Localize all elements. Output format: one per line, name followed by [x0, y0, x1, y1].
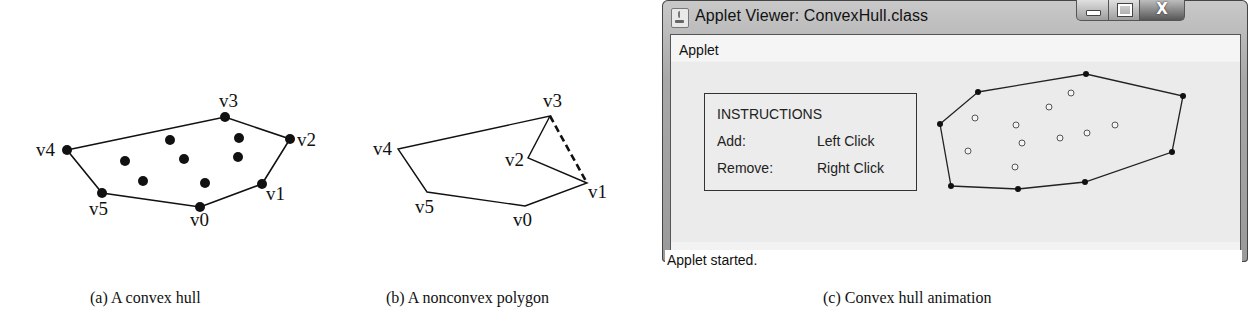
applet-viewer-window: Applet Viewer: ConvexHull.class X Applet… — [662, 0, 1248, 262]
vertex-label-v2: v2 — [297, 129, 316, 150]
vertex-label-v3: v3 — [543, 90, 562, 111]
window-client-area: Applet INSTRUCTIONS Add: Left Click Remo… — [670, 34, 1241, 255]
maximize-button[interactable] — [1108, 0, 1140, 21]
vertex-label-v4: v4 — [373, 138, 393, 159]
vertex-label-v1: v1 — [588, 181, 607, 202]
window-title: Applet Viewer: ConvexHull.class — [695, 7, 928, 25]
instruction-remove-label: Remove: — [717, 160, 773, 176]
instruction-remove-value: Right Click — [817, 160, 884, 176]
instruction-add-label: Add: — [717, 133, 746, 149]
interior-point — [179, 154, 189, 164]
figures-ab-canvas: v0v1v2v3v4v5v0v1v2v3v4v5 — [0, 0, 660, 280]
status-bar: Applet started. — [665, 250, 1242, 274]
caption-a: (a) A convex hull — [90, 289, 201, 307]
hull-canvas-panel[interactable]: INSTRUCTIONS Add: Left Click Remove: Rig… — [671, 62, 1240, 242]
close-icon: X — [1140, 0, 1184, 19]
vertex-label-v1: v1 — [266, 183, 285, 204]
vertex-label-v3: v3 — [219, 90, 238, 111]
instructions-box: INSTRUCTIONS Add: Left Click Remove: Rig… — [704, 93, 917, 191]
vertex-label-v2: v2 — [505, 149, 524, 170]
interior-point — [233, 152, 243, 162]
hull-vertex-v4 — [62, 145, 72, 155]
close-button[interactable]: X — [1139, 0, 1185, 21]
hull-vertex-v3 — [220, 112, 230, 122]
interior-point — [200, 178, 210, 188]
instruction-add-value: Left Click — [817, 133, 875, 149]
minimize-button[interactable] — [1076, 0, 1109, 21]
menu-bar: Applet — [671, 35, 1240, 61]
instructions-heading: INSTRUCTIONS — [717, 106, 822, 122]
dashed-edge-v3-v1 — [550, 116, 587, 183]
vertex-label-v5: v5 — [89, 198, 108, 219]
hull-vertex-v2 — [285, 134, 295, 144]
caption-c: (c) Convex hull animation — [823, 289, 991, 307]
vertex-label-v5: v5 — [415, 196, 434, 217]
menu-applet[interactable]: Applet — [679, 42, 719, 58]
vertex-label-v0: v0 — [190, 209, 209, 230]
vertex-label-v4: v4 — [36, 139, 56, 160]
interior-point — [120, 156, 130, 166]
vertex-label-v0: v0 — [513, 209, 532, 230]
interior-point — [165, 135, 175, 145]
caption-b: (b) A nonconvex polygon — [386, 289, 549, 307]
interior-point — [234, 133, 244, 143]
title-bar[interactable]: Applet Viewer: ConvexHull.class X — [662, 0, 1248, 33]
interior-point — [138, 176, 148, 186]
hull-vertex-v5 — [97, 188, 107, 198]
java-app-icon[interactable] — [671, 8, 689, 28]
